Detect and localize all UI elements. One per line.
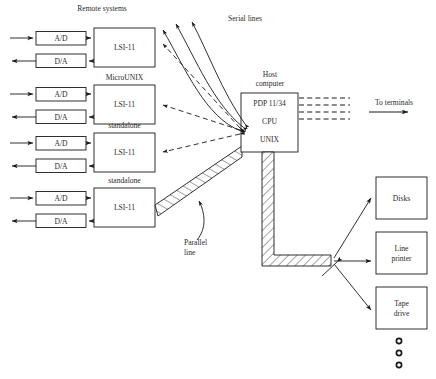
host-cpu-label: CPU — [241, 117, 298, 127]
dac-label-2: D/A — [36, 113, 86, 123]
lsi11-label-4: LSI-11 — [94, 203, 155, 213]
to-terminals-label: To terminals — [375, 98, 413, 108]
line-printer-label-2: printer — [376, 254, 427, 264]
adc-label-3: A/D — [36, 139, 86, 149]
os-label-4: standalone — [94, 176, 155, 186]
host-model-label: PDP 11/34 — [241, 99, 298, 109]
adc-label-2: A/D — [36, 90, 86, 100]
dac-label-3: D/A — [36, 162, 86, 172]
host-os-label: UNIX — [241, 135, 298, 145]
line-printer-label-1: Line — [376, 244, 427, 254]
dac-label-1: D/A — [36, 57, 86, 67]
tape-drive-label-2: drive — [376, 309, 427, 319]
page-title: Remote systems — [52, 4, 152, 14]
lsi11-label-2: LSI-11 — [94, 100, 155, 110]
parallel-line-callout — [197, 201, 204, 240]
parallel-line-bus — [155, 146, 242, 216]
terminal-dashed-lines — [299, 98, 350, 119]
serial-lines-label: Serial lines — [205, 14, 285, 24]
host-peripheral-bus — [262, 152, 331, 266]
os-label-3: standalone — [94, 121, 155, 131]
host-caption-line2: computer — [239, 79, 301, 89]
disks-label: Disks — [376, 194, 427, 204]
parallel-line-label-1: Parallel — [184, 238, 207, 248]
adc-label-1: A/D — [36, 34, 86, 44]
tape-drive-label-1: Tape — [376, 299, 427, 309]
lsi11-label-3: LSI-11 — [94, 148, 155, 158]
os-label-2: MicroUNIX — [94, 73, 155, 83]
peripheral-arrows — [322, 198, 371, 310]
system-architecture-diagram: Remote systems Serial lines A/D D/A LSI-… — [0, 0, 436, 379]
parallel-line-label-2: line — [184, 248, 195, 258]
lsi11-label-1: LSI-11 — [94, 43, 155, 53]
serial-lines-curves — [163, 22, 245, 131]
ellipsis-dots — [396, 338, 401, 367]
adc-label-4: A/D — [36, 194, 86, 204]
dac-label-4: D/A — [36, 217, 86, 227]
